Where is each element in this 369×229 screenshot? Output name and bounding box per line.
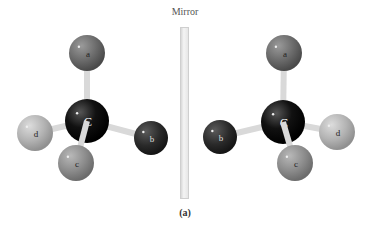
atom-label-d: d [336, 128, 341, 138]
molecules-diagram: abdCcabdCc [0, 0, 369, 229]
atom-label-c: c [294, 159, 298, 169]
atom-label-a: a [86, 49, 90, 59]
atom-label-d: d [34, 129, 39, 139]
atom-label-c: c [75, 159, 79, 169]
atom-label-b: b [150, 134, 155, 144]
atom-label-b: b [219, 133, 224, 143]
atom-label-a: a [283, 49, 287, 59]
molecule-right: abdCc [203, 35, 355, 181]
molecule-left: abdCc [17, 35, 168, 181]
